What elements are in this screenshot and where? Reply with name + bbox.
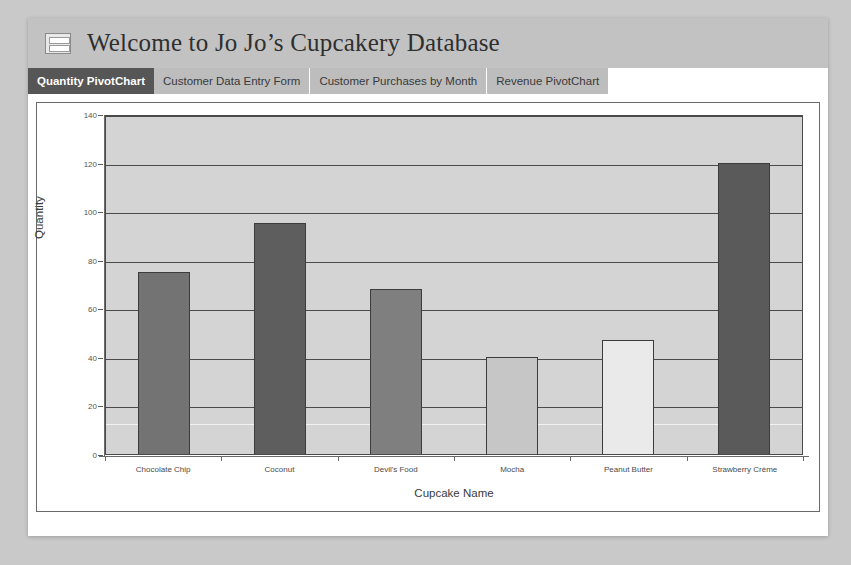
tab-strip-filler — [609, 68, 828, 94]
y-tick-label: 20 — [57, 402, 97, 411]
form-table-icon — [45, 33, 71, 54]
bar-series — [106, 116, 802, 454]
x-axis-tick-labels: Chocolate ChipCoconutDevil's FoodMochaPe… — [105, 465, 803, 474]
x-axis-title: Cupcake Name — [105, 487, 803, 499]
x-tick-label: Peanut Butter — [570, 465, 686, 474]
y-axis-title: Quantity — [33, 196, 45, 239]
y-tick-label: 100 — [57, 208, 97, 217]
y-tick-mark — [98, 164, 103, 165]
x-tick-mark — [570, 456, 571, 461]
x-tick-label: Devil's Food — [338, 465, 454, 474]
y-tick-mark — [98, 212, 103, 213]
tab-strip: Quantity PivotChart Customer Data Entry … — [28, 68, 828, 94]
tab-label: Revenue PivotChart — [496, 75, 599, 87]
x-tick-mark — [338, 456, 339, 461]
y-tick-label: 0 — [57, 451, 97, 460]
x-tick-mark — [803, 456, 804, 461]
bar-slot — [570, 116, 686, 454]
y-tick-label: 140 — [57, 111, 97, 120]
bar[interactable] — [602, 340, 654, 454]
tab-customer-purchases-by-month[interactable]: Customer Purchases by Month — [310, 68, 487, 94]
bar[interactable] — [138, 272, 190, 454]
bar[interactable] — [370, 289, 422, 454]
bar-slot — [686, 116, 802, 454]
bar[interactable] — [486, 357, 538, 454]
tab-label: Customer Purchases by Month — [319, 75, 477, 87]
tab-quantity-pivotchart[interactable]: Quantity PivotChart — [28, 68, 154, 94]
x-tick-label: Mocha — [454, 465, 570, 474]
y-tick-mark — [98, 358, 103, 359]
y-tick-label: 40 — [57, 353, 97, 362]
chart-canvas: Quantity 020406080100120140 Chocolate Ch… — [37, 103, 819, 511]
x-tick-label: Strawberry Crème — [687, 465, 803, 474]
x-tick-mark — [454, 456, 455, 461]
database-window: Welcome to Jo Jo’s Cupcakery Database Qu… — [28, 18, 828, 536]
y-tick-mark — [98, 406, 103, 407]
tab-revenue-pivotchart[interactable]: Revenue PivotChart — [487, 68, 609, 94]
bar[interactable] — [254, 223, 306, 454]
y-tick-mark — [98, 261, 103, 262]
tab-label: Customer Data Entry Form — [163, 75, 300, 87]
x-tick-label: Coconut — [221, 465, 337, 474]
plot-area — [105, 115, 803, 455]
tab-customer-data-entry-form[interactable]: Customer Data Entry Form — [154, 68, 310, 94]
y-tick-label: 60 — [57, 305, 97, 314]
y-tick-mark — [98, 115, 103, 116]
pivotchart-card: Quantity 020406080100120140 Chocolate Ch… — [36, 102, 820, 512]
bar-slot — [338, 116, 454, 454]
x-tick-mark — [105, 456, 106, 461]
y-tick-label: 120 — [57, 159, 97, 168]
x-tick-mark — [687, 456, 688, 461]
tab-label: Quantity PivotChart — [37, 75, 145, 87]
y-tick-label: 80 — [57, 256, 97, 265]
bar-slot — [222, 116, 338, 454]
y-tick-mark — [98, 309, 103, 310]
bar-slot — [106, 116, 222, 454]
bar[interactable] — [718, 163, 770, 454]
x-tick-mark — [221, 456, 222, 461]
window-header: Welcome to Jo Jo’s Cupcakery Database — [28, 18, 828, 68]
page-title: Welcome to Jo Jo’s Cupcakery Database — [87, 29, 500, 57]
bar-slot — [454, 116, 570, 454]
x-tick-label: Chocolate Chip — [105, 465, 221, 474]
